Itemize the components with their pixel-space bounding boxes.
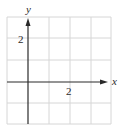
y-tick-label-2: 2 bbox=[18, 33, 24, 45]
x-axis bbox=[7, 80, 108, 85]
y-axis bbox=[26, 18, 31, 124]
y-axis-arrow-icon bbox=[26, 18, 31, 26]
x-axis-label: x bbox=[111, 75, 117, 87]
x-axis-arrow-icon bbox=[100, 80, 108, 85]
y-axis-label: y bbox=[25, 3, 31, 15]
x-tick-label-2: 2 bbox=[66, 85, 72, 97]
coordinate-plane: x y 2 2 bbox=[0, 0, 122, 128]
